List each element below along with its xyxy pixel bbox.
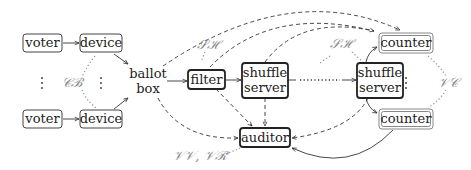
node-filter: filter [188,70,225,89]
ellipsis-devices [100,77,102,89]
edge-device-bottom-to-ballotbox [114,98,128,109]
edge-device-top-to-ballotbox [114,54,128,64]
sh2-line-right [352,52,363,62]
node-counter-top: counter [379,33,433,53]
sh1-line [201,52,205,62]
edge-shuffle2-to-counter-bottom [366,98,377,113]
vc-line-top [428,56,446,76]
shuffle1-line2: server [244,80,287,95]
ellipsis-voters [41,77,43,89]
election-architecture-diagram: voter device voter device ballot box fil… [0,0,471,170]
filter-label: filter [191,72,224,87]
label-sh-1: 𝒮ℋ [197,37,224,52]
node-voter-bottom: voter [23,110,62,128]
node-voter-top: voter [23,34,62,52]
label-vv-vr: 𝒱𝒱, 𝒱ℛ [173,148,228,163]
device-bottom-label: device [80,111,123,126]
ballot-box-line2: box [136,81,160,96]
device-top-label: device [80,35,123,50]
node-auditor: auditor [240,128,290,147]
auditor-label: auditor [241,130,290,145]
node-device-bottom: device [80,110,123,128]
node-counter-bottom: counter [379,109,433,129]
vc-line-bottom [428,90,446,108]
counter-bottom-label: counter [381,111,433,126]
cb-line-top [82,56,95,78]
label-cb: 𝒞ℬ [62,75,85,90]
edge-shuffle2-to-auditor [292,98,368,138]
voter-bottom-label: voter [24,111,60,126]
counter-top-label: counter [381,35,433,50]
node-shuffle-server-1: shuffle server [242,63,288,98]
voter-top-label: voter [24,35,60,50]
ballot-box-line1: ballot [129,66,167,81]
edge-counter-bottom-to-auditor [292,130,393,158]
edge-ballotbox-to-auditor [158,98,238,138]
node-ballot-box: ballot box [129,66,167,96]
solid-edges [63,43,393,158]
cb-line-bottom [82,90,96,108]
node-device-top: device [80,34,123,52]
sh2-line-left [320,56,330,63]
label-vc: 𝒱𝒞 [438,75,462,90]
ellipsis-counters [405,77,407,89]
node-shuffle-server-2: shuffle server [357,63,403,98]
shuffle1-line1: shuffle [243,65,288,80]
shuffle2-line2: server [359,80,402,95]
shuffle2-line1: shuffle [358,65,403,80]
edge-shuffle2-to-counter-top [366,47,377,62]
label-sh-2: 𝒮ℋ [330,36,357,51]
